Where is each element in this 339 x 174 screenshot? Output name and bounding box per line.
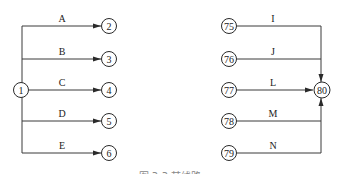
node-77: 77: [222, 83, 237, 98]
svg-text:76: 76: [224, 54, 234, 65]
left-diagram: A B C D E 1 2 3 4 5 6: [14, 13, 117, 161]
edge-label-e: E: [59, 140, 65, 151]
node-80: 80: [314, 82, 330, 98]
svg-text:79: 79: [224, 148, 234, 159]
node-6: 6: [102, 146, 117, 161]
edge-label-i: I: [271, 13, 274, 24]
svg-text:3: 3: [107, 54, 112, 65]
edge-label-b: B: [59, 46, 66, 57]
figure-caption: 图 3-3 某线路: [139, 170, 202, 174]
node-75: 75: [222, 19, 237, 34]
edge-label-j: J: [271, 46, 275, 57]
node-79: 79: [222, 146, 237, 161]
edge-label-l: L: [270, 77, 276, 88]
svg-text:1: 1: [19, 85, 24, 96]
edge-label-d: D: [58, 108, 65, 119]
svg-text:6: 6: [107, 148, 112, 159]
svg-text:80: 80: [317, 85, 327, 96]
node-78: 78: [222, 114, 237, 129]
node-2: 2: [102, 19, 117, 34]
node-76: 76: [222, 52, 237, 67]
node-4: 4: [102, 83, 117, 98]
svg-text:5: 5: [107, 116, 112, 127]
node-1: 1: [14, 83, 29, 98]
network-diagram: A B C D E 1 2 3 4 5 6: [0, 0, 339, 174]
node-5: 5: [102, 114, 117, 129]
svg-text:78: 78: [224, 116, 234, 127]
svg-text:77: 77: [224, 85, 234, 96]
svg-text:75: 75: [224, 21, 234, 32]
right-diagram: I J L M N 75 76 77 78 79 80: [222, 13, 331, 161]
edge-label-n: N: [269, 140, 276, 151]
svg-text:2: 2: [107, 21, 112, 32]
edge-label-c: C: [59, 77, 66, 88]
edge-label-a: A: [58, 13, 66, 24]
node-3: 3: [102, 52, 117, 67]
svg-text:4: 4: [107, 85, 112, 96]
edge-label-m: M: [269, 108, 278, 119]
